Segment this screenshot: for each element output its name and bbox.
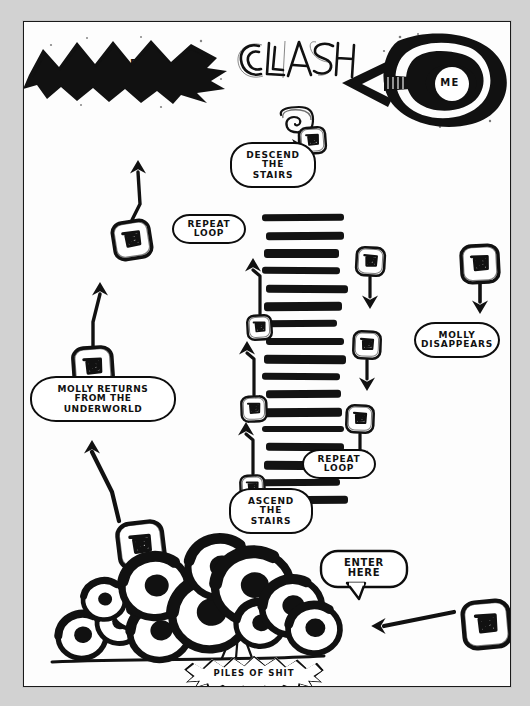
spiral-node-stair-left-2[interactable] xyxy=(241,396,267,422)
arrow-shaft xyxy=(93,294,100,346)
arrow-molly-disappears xyxy=(472,284,488,314)
arrow-shaft xyxy=(253,270,260,314)
molly-disappears-label: MOLLY DISAPPEARS xyxy=(421,330,493,350)
repeat-loop-lower-label: REPEAT LOOP xyxy=(317,454,360,474)
arrow-shaft xyxy=(246,434,253,474)
ascend-the-stairs-label: ASCEND THE STAIRS xyxy=(248,496,294,526)
spiral-node-stair-right-2[interactable] xyxy=(353,331,381,359)
arrow-ascend-1 xyxy=(245,258,261,314)
spiral-line xyxy=(364,255,377,266)
arrow-shaft xyxy=(132,172,140,220)
arrow-left-lower xyxy=(92,282,108,346)
arrow-shaft xyxy=(384,612,454,626)
spiral-line xyxy=(254,322,265,332)
arrow-ascend-2 xyxy=(239,341,255,395)
page-background: ANGER xyxy=(0,0,530,706)
spiral-line xyxy=(248,403,260,413)
spiral-node-left-upper[interactable] xyxy=(111,219,153,261)
spiral-node-stair-right-1[interactable] xyxy=(356,247,385,276)
spiral-glyph xyxy=(248,403,260,413)
spiral-glyph xyxy=(254,322,265,332)
spiral-glyph xyxy=(364,255,377,266)
arrow-left-upper xyxy=(130,160,146,220)
arrow-enter-here xyxy=(371,612,454,634)
spiral-node-enter-here[interactable] xyxy=(462,600,511,650)
repeat-loop-upper-label: REPEAT LOOP xyxy=(187,219,230,239)
pile-blob xyxy=(287,603,341,654)
arrow-underworld-up xyxy=(84,440,119,521)
spiral-node-molly-disappears[interactable] xyxy=(461,245,500,284)
callout-descend-the-stairs[interactable]: DESCEND THE STAIRS xyxy=(230,142,316,188)
arrow-shaft xyxy=(247,353,254,395)
descend-the-stairs-label: DESCEND THE STAIRS xyxy=(246,150,300,180)
callout-ascend-the-stairs[interactable]: ASCEND THE STAIRS xyxy=(229,488,313,534)
callout-repeat-loop-lower[interactable]: REPEAT LOOP xyxy=(302,449,376,479)
callout-repeat-loop-upper[interactable]: REPEAT LOOP xyxy=(172,214,246,244)
arrow-descend-2 xyxy=(359,360,375,391)
arrow-ascend-3 xyxy=(238,422,254,474)
comic-panel-frame: ANGER xyxy=(23,21,511,687)
piles-of-shit-cluster xyxy=(52,535,341,662)
arrow-descend-1 xyxy=(362,277,378,309)
callout-molly-returns-underworld[interactable]: MOLLY RETURNS FROM THE UNDERWORLD xyxy=(30,376,176,422)
molly-returns-label: MOLLY RETURNS FROM THE UNDERWORLD xyxy=(58,384,149,414)
spiral-node-stair-left-1[interactable] xyxy=(247,315,272,340)
piles-of-shit-label: PILES OF SHIT xyxy=(213,668,294,677)
arrow-shaft xyxy=(92,452,119,521)
callout-molly-disappears[interactable]: MOLLY DISAPPEARS xyxy=(414,322,500,358)
spiral-node-stair-right-3[interactable] xyxy=(346,405,374,433)
